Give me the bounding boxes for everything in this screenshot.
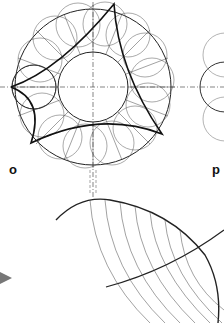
- panel-label-p: p: [212, 162, 220, 177]
- panel-label-o: o: [9, 162, 17, 177]
- panel-o-construction: [0, 2, 224, 200]
- diagram-canvas: [0, 0, 224, 323]
- lower-construction: [0, 170, 224, 323]
